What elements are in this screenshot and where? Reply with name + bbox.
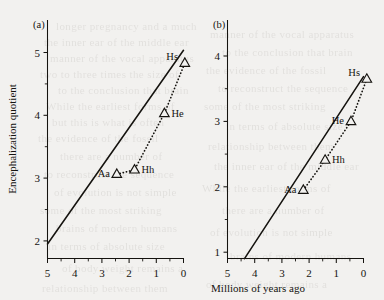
data-point-label: Hh bbox=[332, 154, 346, 165]
data-point-marker[interactable] bbox=[180, 58, 190, 66]
panel-a-data-points: Aa Hh He Hs bbox=[98, 51, 190, 179]
panel-a-dotted-trend bbox=[117, 63, 185, 174]
figure-page: longer pregnancy and a much the inner ea… bbox=[0, 0, 384, 300]
panel-b-ytick-label: 3 bbox=[215, 115, 221, 127]
x-axis-title: Millions of years ago bbox=[211, 282, 305, 294]
panel-a-xtick-label: 2 bbox=[126, 267, 132, 279]
encephalization-quotient-figure: (a) 5 4 3 2 bbox=[0, 0, 384, 300]
data-point-marker[interactable] bbox=[160, 108, 170, 116]
data-point-marker[interactable] bbox=[299, 185, 309, 193]
panel-b-xtick-label: 0 bbox=[361, 267, 367, 279]
panel-b-ytick-label: 4 bbox=[215, 50, 221, 62]
y-axis-title: Encephalization quotient bbox=[6, 84, 18, 194]
panel-a-solid-regression bbox=[48, 50, 184, 244]
panel-b-ytick-label: 1 bbox=[215, 246, 221, 258]
data-point-label: Hh bbox=[142, 164, 156, 175]
panel-b-xtick-label: 1 bbox=[334, 267, 340, 279]
data-point-label: He bbox=[172, 108, 185, 119]
panel-b-xtick-label: 3 bbox=[279, 267, 285, 279]
data-point-marker[interactable] bbox=[346, 116, 356, 124]
data-point-label: Aa bbox=[98, 168, 111, 179]
panel-a-x-ticks: 5 4 3 2 1 0 bbox=[45, 259, 187, 280]
panel-a-ytick-label: 3 bbox=[35, 172, 41, 184]
panel-b-ytick-label: 2 bbox=[215, 181, 221, 193]
data-point-label: He bbox=[332, 115, 345, 126]
panel-a-xtick-label: 4 bbox=[72, 267, 78, 279]
panel-b-axes bbox=[228, 20, 365, 259]
panel-b-xtick-label: 2 bbox=[306, 267, 312, 279]
data-point-label: Hs bbox=[166, 51, 178, 62]
panel-a-xtick-label: 5 bbox=[45, 267, 51, 279]
panel-b-xtick-label: 4 bbox=[252, 267, 258, 279]
data-point-marker[interactable] bbox=[130, 165, 140, 173]
panel-b-label: (b) bbox=[213, 19, 226, 31]
panel-a-xtick-label: 0 bbox=[181, 267, 187, 279]
data-point-label: Hs bbox=[348, 67, 360, 78]
panel-b-x-ticks: 5 4 3 2 1 0 bbox=[225, 259, 367, 280]
panel-a-label: (a) bbox=[33, 19, 45, 31]
panel-b-solid-regression bbox=[245, 77, 364, 259]
data-point-label: Aa bbox=[284, 184, 297, 195]
panel-a-axes bbox=[48, 20, 185, 259]
panel-b: (b) 4 3 2 1 bbox=[213, 19, 372, 279]
panel-a-ytick-label: 5 bbox=[35, 47, 41, 59]
panel-a-xtick-label: 1 bbox=[154, 267, 160, 279]
panel-a-ytick-label: 4 bbox=[35, 109, 41, 121]
panel-a: (a) 5 4 3 2 bbox=[33, 19, 190, 279]
panel-a-xtick-label: 3 bbox=[99, 267, 105, 279]
panel-b-dotted-trend bbox=[303, 79, 367, 190]
panel-b-xtick-label: 5 bbox=[225, 267, 231, 279]
panel-a-ytick-label: 2 bbox=[35, 235, 41, 247]
